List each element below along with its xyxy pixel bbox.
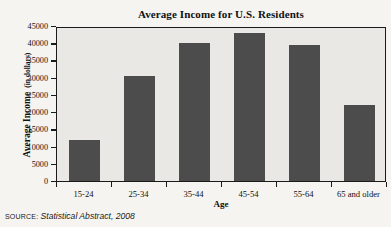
- bar: [344, 105, 375, 181]
- y-tick: 45000: [0, 22, 56, 32]
- y-tick: 15000: [0, 125, 56, 135]
- y-tick: 40000: [0, 39, 56, 49]
- source-note: SOURCE: Statistical Abstract, 2008: [5, 211, 135, 221]
- y-tick: 20000: [0, 108, 56, 118]
- x-tick-label: 25-34: [111, 189, 166, 199]
- x-tick-label: 15-24: [56, 189, 111, 199]
- y-tick-label: 45000: [28, 22, 48, 32]
- y-tick-label: 15000: [28, 125, 48, 135]
- x-tick-mark: [276, 182, 277, 187]
- x-tick-mark: [331, 182, 332, 187]
- x-tick-label: 45-54: [221, 189, 276, 199]
- x-tick-mark: [386, 182, 387, 187]
- bar: [179, 43, 210, 181]
- y-tick-label: 40000: [28, 39, 48, 49]
- y-tick-label: 5000: [32, 160, 48, 170]
- y-tick-label: 20000: [28, 108, 48, 118]
- bar: [234, 33, 265, 181]
- x-tick-mark: [111, 182, 112, 187]
- y-tick: 25000: [0, 91, 56, 101]
- x-tick-label: 55-64: [276, 189, 331, 199]
- y-tick-label: 25000: [28, 91, 48, 101]
- x-axis-title: Age: [56, 199, 386, 209]
- x-tick-mark: [166, 182, 167, 187]
- y-tick: 30000: [0, 74, 56, 84]
- y-tick: 0: [0, 177, 56, 187]
- y-tick: 5000: [0, 160, 56, 170]
- x-tick-mark: [221, 182, 222, 187]
- x-tick-label: 35-44: [166, 189, 221, 199]
- source-text: Statistical Abstract, 2008: [41, 211, 135, 221]
- y-tick: 35000: [0, 56, 56, 66]
- x-tick-label: 65 and older: [331, 189, 386, 199]
- chart-figure: Average Income for U.S. Residents Averag…: [0, 0, 391, 227]
- y-tick-label: 10000: [28, 143, 48, 153]
- bar: [289, 45, 320, 181]
- bar: [69, 140, 100, 181]
- plot-frame: [56, 27, 386, 182]
- x-tick-mark: [56, 182, 57, 187]
- bar: [124, 76, 155, 181]
- y-tick: 10000: [0, 143, 56, 153]
- source-label: SOURCE:: [5, 213, 38, 220]
- chart-title: Average Income for U.S. Residents: [55, 8, 387, 20]
- plot-area: [57, 28, 385, 181]
- y-tick-label: 0: [44, 177, 48, 187]
- y-tick-label: 35000: [28, 56, 48, 66]
- y-tick-label: 30000: [28, 74, 48, 84]
